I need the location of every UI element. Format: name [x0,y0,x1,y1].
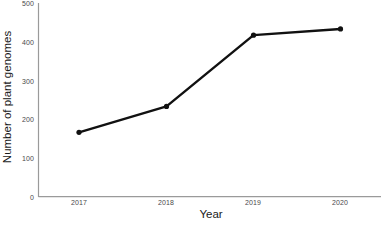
y-tick-label-200: 200 [12,116,34,123]
x-tick-label-2020: 2020 [320,199,360,206]
y-axis-title: Number of plant genomes [1,0,15,197]
chart-figure: 500 400 300 200 100 0 2017 2018 2019 202… [0,0,386,228]
x-tick-label-2019: 2019 [233,199,273,206]
x-tick-label-2018: 2018 [146,199,186,206]
y-tick-label-400: 400 [12,38,34,45]
data-point-2019 [251,33,256,38]
data-point-markers [76,26,343,135]
data-point-2020 [338,26,343,31]
line-chart-plot [0,0,386,228]
y-tick-label-500: 500 [12,0,34,7]
y-tick-label-0: 0 [12,194,34,201]
data-series-line [79,29,341,132]
data-point-2018 [164,104,169,109]
x-tick-label-2017: 2017 [59,199,99,206]
y-tick-label-100: 100 [12,155,34,162]
x-axis-title: Year [111,208,311,220]
data-point-2017 [76,130,81,135]
y-tick-label-300: 300 [12,77,34,84]
